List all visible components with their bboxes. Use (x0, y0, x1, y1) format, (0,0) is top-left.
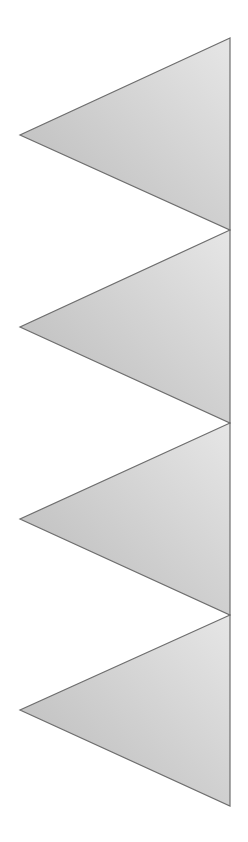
triangle-2 (20, 230, 230, 423)
triangle-4 (20, 615, 230, 806)
triangle-1 (20, 38, 230, 230)
zigzag-triangle-graphic (0, 0, 248, 842)
triangle-group (20, 38, 230, 806)
triangle-3 (20, 423, 230, 615)
